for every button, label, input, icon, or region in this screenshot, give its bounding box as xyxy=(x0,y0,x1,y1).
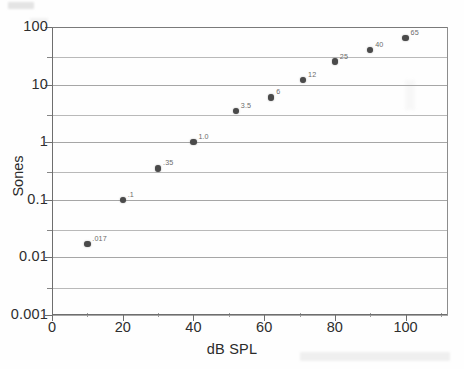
plot-area xyxy=(52,27,448,315)
data-point-label: .017 xyxy=(92,234,106,243)
data-point-label: 25 xyxy=(340,52,348,61)
data-point-label: 12 xyxy=(308,70,316,79)
x-axis-tick-label: 20 xyxy=(103,319,143,335)
plot-border-right xyxy=(447,27,448,315)
data-point-label: 65 xyxy=(411,28,419,37)
y-axis-tick-label: 0.01 xyxy=(0,248,48,264)
x-axis-title: dB SPL xyxy=(0,341,464,357)
x-axis-tick-label: 100 xyxy=(386,319,426,335)
data-point-label: 40 xyxy=(375,40,383,49)
data-point xyxy=(402,35,408,41)
x-axis-tick-label: 0 xyxy=(32,319,72,335)
data-point xyxy=(268,94,274,100)
y-axis-tick-label: 100 xyxy=(0,18,48,34)
data-point-label: .35 xyxy=(163,158,173,167)
x-axis-tick-label: 80 xyxy=(315,319,355,335)
x-axis-tick-label: 40 xyxy=(173,319,213,335)
plot-border-top xyxy=(52,27,448,28)
data-point xyxy=(155,165,161,171)
loudness-scatter-figure: 1001010.10.010.001 020406080100 .017.1.3… xyxy=(0,0,464,369)
data-point xyxy=(190,139,196,145)
data-point xyxy=(233,108,239,114)
y-axis-title: Sones xyxy=(10,116,26,236)
data-point-label: 3.5 xyxy=(241,101,251,110)
data-point xyxy=(332,58,338,64)
scan-artifact-top-left xyxy=(8,2,34,9)
data-point xyxy=(120,197,126,203)
data-point-label: 1.0 xyxy=(198,132,208,141)
gridline xyxy=(52,315,448,316)
data-point xyxy=(84,241,90,247)
y-axis-tick-label: 10 xyxy=(0,76,48,92)
data-point-label: .1 xyxy=(128,190,134,199)
x-axis-tick-label: 60 xyxy=(244,319,284,335)
data-point-label: 6 xyxy=(276,87,280,96)
